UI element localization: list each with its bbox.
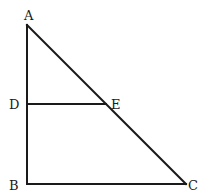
point-label-b: B <box>9 178 19 193</box>
point-label-d: D <box>9 97 19 112</box>
point-label-a: A <box>23 8 34 23</box>
point-label-e: E <box>111 97 121 112</box>
geometry-diagram: A B C D E <box>0 0 210 196</box>
point-label-c: C <box>188 178 198 193</box>
